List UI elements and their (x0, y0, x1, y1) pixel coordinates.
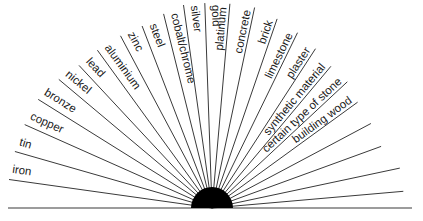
ray-line (184, 5, 213, 208)
ray-line (59, 79, 212, 208)
ray-label: tin (18, 136, 33, 151)
ray-line (38, 99, 212, 208)
ray-line (9, 180, 212, 209)
ray-label: bronze (43, 86, 79, 115)
ray-line (212, 82, 347, 208)
ray-label: nickel (64, 68, 94, 96)
ray-label: zinc (126, 30, 146, 54)
ray-line (25, 125, 212, 208)
ray-label: iron (12, 163, 33, 178)
ray-line (205, 3, 212, 208)
ray-line (79, 65, 212, 208)
ray-line (121, 36, 213, 208)
ray-line (15, 152, 212, 209)
fan-svg: irontincopperbronzenickelleadaluminiumzi… (0, 0, 423, 221)
ray-label: brick (256, 18, 275, 45)
ray-label: silver (189, 5, 205, 33)
material-fan-diagram: irontincopperbronzenickelleadaluminiumzi… (0, 0, 423, 221)
ray-label: steel (148, 22, 168, 49)
ray-line (212, 191, 403, 208)
ray-line (142, 26, 212, 208)
